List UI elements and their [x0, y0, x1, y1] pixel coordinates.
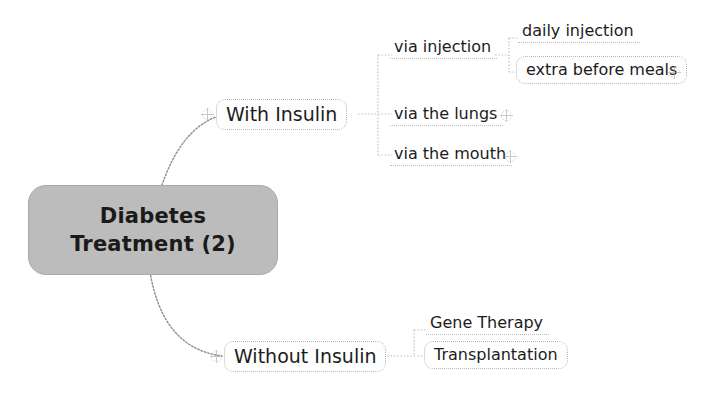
expander-ring: [202, 109, 213, 120]
node-transplantation-label: Transplantation: [434, 345, 558, 364]
node-gene-therapy[interactable]: Gene Therapy: [426, 312, 549, 335]
expander-without-insulin-icon[interactable]: [210, 350, 223, 363]
expander-ring: [211, 351, 222, 362]
node-gene-therapy-label: Gene Therapy: [430, 313, 543, 332]
node-via-the-lungs-label: via the lungs: [394, 104, 497, 123]
expander-ring: [501, 110, 512, 121]
node-daily-injection[interactable]: daily injection: [518, 20, 640, 43]
expander-via-the-mouth-icon[interactable]: [504, 150, 517, 163]
expander-via-the-lungs-icon[interactable]: [500, 109, 513, 122]
root-node-label-line1: Diabetes: [100, 202, 206, 230]
expander-with-insulin-icon[interactable]: [201, 108, 214, 121]
node-via-injection-label: via injection: [394, 37, 491, 56]
node-via-the-lungs[interactable]: via the lungs: [390, 103, 503, 126]
node-transplantation[interactable]: Transplantation: [424, 341, 568, 369]
mind-map-canvas: Diabetes Treatment (2) With Insulin via …: [0, 0, 710, 398]
node-via-the-mouth-label: via the mouth: [394, 144, 506, 163]
node-via-the-mouth[interactable]: via the mouth: [390, 143, 512, 166]
node-extra-before-meals[interactable]: extra before meals: [516, 56, 687, 84]
node-without-insulin[interactable]: Without Insulin: [224, 341, 386, 372]
node-with-insulin[interactable]: With Insulin: [216, 99, 347, 130]
wire-root-to-without-insulin: [150, 272, 222, 356]
node-extra-before-meals-label: extra before meals: [526, 60, 677, 79]
node-daily-injection-label: daily injection: [522, 21, 634, 40]
expander-ring: [505, 151, 516, 162]
node-without-insulin-label: Without Insulin: [234, 345, 376, 367]
root-node[interactable]: Diabetes Treatment (2): [28, 185, 278, 275]
node-via-injection[interactable]: via injection: [390, 36, 497, 59]
expander-extra-before-meals-icon[interactable]: [668, 66, 681, 79]
expander-ring: [669, 67, 680, 78]
root-node-label-line2: Treatment (2): [70, 230, 236, 258]
node-with-insulin-label: With Insulin: [226, 103, 337, 125]
